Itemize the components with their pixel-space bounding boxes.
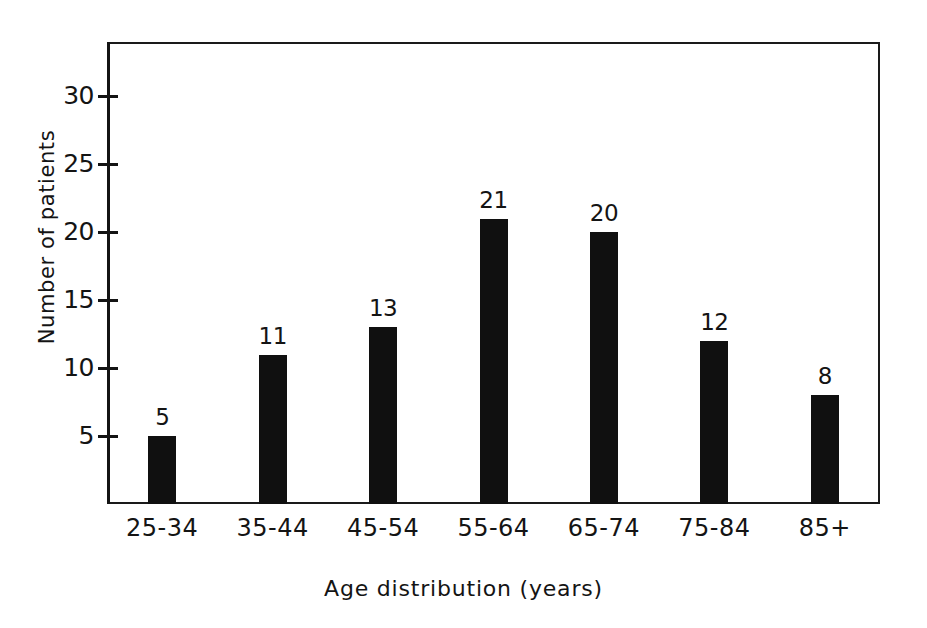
bar-value-label-55-64: 21	[454, 189, 534, 212]
bar-value-label-35-44: 11	[233, 325, 313, 348]
bar-55-64	[480, 219, 508, 504]
bar-45-54	[369, 327, 397, 504]
bar-85+	[811, 395, 839, 504]
x-tick-label-25-34: 25-34	[102, 516, 222, 540]
bar-value-label-85+: 8	[785, 365, 865, 388]
x-tick-label-65-74: 65-74	[544, 516, 664, 540]
bar-chart-figure: 51015202530 Number of patients 525-34113…	[0, 0, 927, 628]
x-axis-title: Age distribution (years)	[0, 576, 927, 601]
bar-75-84	[700, 341, 728, 504]
y-tick-15	[98, 299, 118, 302]
y-tick-5	[98, 435, 118, 438]
y-tick-30	[98, 95, 118, 98]
y-tick-label-10: 10	[34, 355, 94, 380]
bar-value-label-45-54: 13	[343, 297, 423, 320]
x-tick-label-75-84: 75-84	[654, 516, 774, 540]
y-tick-10	[98, 367, 118, 370]
y-tick-25	[98, 163, 118, 166]
y-tick-20	[98, 231, 118, 234]
bar-value-label-75-84: 12	[674, 311, 754, 334]
chart-title	[0, 21, 1, 22]
bar-value-label-25-34: 5	[122, 406, 202, 429]
y-axis-title: Number of patients	[35, 122, 59, 352]
x-tick-label-55-64: 55-64	[434, 516, 554, 540]
x-tick-label-85+: 85+	[765, 516, 885, 540]
bar-25-34	[148, 436, 176, 504]
x-tick-label-45-54: 45-54	[323, 516, 443, 540]
y-tick-label-30: 30	[34, 83, 94, 108]
bar-value-label-65-74: 20	[564, 202, 644, 225]
bar-65-74	[590, 232, 618, 504]
x-tick-label-35-44: 35-44	[213, 516, 333, 540]
bar-35-44	[259, 355, 287, 504]
y-tick-label-5: 5	[34, 423, 94, 448]
